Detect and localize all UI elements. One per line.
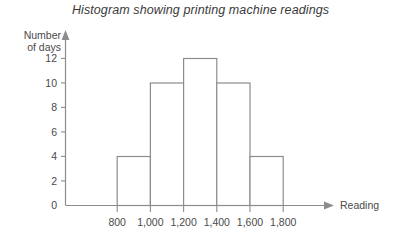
y-axis-arrow-icon (62, 30, 70, 40)
x-axis-ticks (117, 206, 283, 213)
plot-area: 0 2 4 6 8 10 12 800 1,000 (0, 0, 401, 245)
y-tick-label: 12 (45, 52, 57, 64)
y-tick-label: 4 (51, 150, 57, 162)
y-tick-label: 10 (45, 77, 57, 89)
y-axis-tick-labels: 0 2 4 6 8 10 12 (45, 52, 57, 211)
x-tick-label: 1,800 (270, 216, 296, 228)
histogram-chart: Histogram showing printing machine readi… (0, 0, 401, 245)
x-tick-label: 800 (108, 216, 126, 228)
x-axis-tick-labels: 800 1,000 1,200 1,400 1,600 1,800 (108, 216, 296, 228)
x-axis-arrow-icon (324, 202, 334, 210)
y-tick-label: 8 (51, 101, 57, 113)
y-tick-label: 0 (51, 199, 57, 211)
bar-bin-4 (250, 157, 283, 206)
y-tick-label: 2 (51, 175, 57, 187)
bar-bin-1 (150, 83, 183, 206)
x-tick-label: 1,400 (204, 216, 230, 228)
bar-bin-2 (184, 59, 217, 206)
x-tick-label: 1,000 (137, 216, 163, 228)
bar-bin-3 (217, 83, 250, 206)
y-tick-label: 6 (51, 126, 57, 138)
bar-series (117, 59, 283, 206)
y-axis-ticks (61, 58, 66, 180)
x-tick-label: 1,200 (170, 216, 196, 228)
bar-bin-0 (117, 157, 150, 206)
x-tick-label: 1,600 (237, 216, 263, 228)
